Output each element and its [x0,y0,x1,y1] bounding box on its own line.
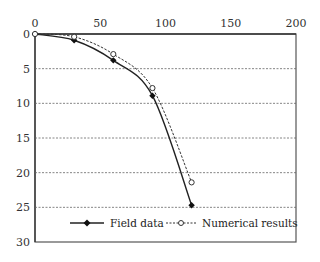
y-tick-label: 30 [16,236,30,249]
data-point-circle-icon [72,34,77,39]
x-tick-label: 200 [286,17,307,30]
x-tick-label: 150 [220,17,241,30]
series-numerical-results [32,31,194,185]
data-point-circle-icon [32,31,37,36]
legend: Field data Numerical results [70,217,298,229]
y-tick-label: 15 [16,132,30,145]
y-tick-label: 5 [23,63,30,76]
legend-numerical-marker-icon [179,221,184,226]
y-tick-label: 25 [16,201,30,214]
y-tick-label: 10 [16,97,30,110]
series-field-data [32,31,195,209]
legend-field-marker-icon [84,220,91,227]
x-tick-label: 0 [32,17,39,30]
legend-numerical-label: Numerical results [202,217,298,229]
data-point-circle-icon [111,52,116,57]
x-tick-label: 50 [93,17,107,30]
series-layer [32,31,195,209]
data-point-diamond-icon [149,93,155,99]
data-point-circle-icon [189,180,194,185]
x-tick-label: 100 [155,17,176,30]
chart: 050100150200 051015202530 Field data Num… [0,0,320,262]
gridlines [35,69,296,208]
y-tick-label: 0 [23,28,30,41]
y-tick-label: 20 [16,167,30,180]
data-point-circle-icon [150,85,155,90]
y-axis-ticks: 051015202530 [16,28,30,249]
legend-field-label: Field data [110,217,164,229]
x-axis-ticks: 050100150200 [32,17,307,30]
